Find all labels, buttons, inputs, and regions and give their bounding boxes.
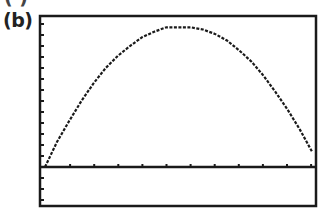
plot-frame [40, 16, 316, 206]
parabola-curve [45, 27, 312, 167]
axis-ticks [40, 24, 311, 200]
parabola-plot [0, 0, 318, 214]
